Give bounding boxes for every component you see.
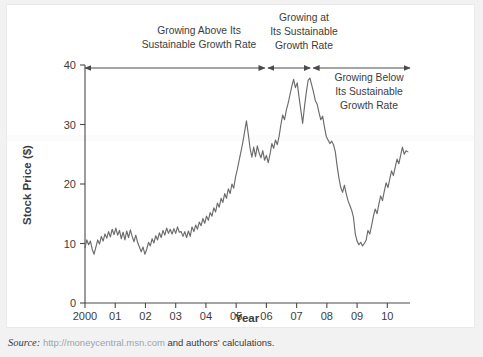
- y-axis-tick-labels: 010203040: [64, 59, 76, 309]
- annotation-growing-at-line-1: Growing at: [279, 12, 329, 23]
- background-band: [7, 135, 474, 141]
- x-tick-label-2000: 2000: [73, 310, 97, 322]
- y-tick-label-20: 20: [64, 178, 76, 190]
- annotation-growing-at-line-2: Its Sustainable: [270, 26, 338, 37]
- y-axis-ticks: [80, 65, 85, 303]
- x-tick-label-03: 03: [170, 310, 182, 322]
- source-label: Source:: [8, 337, 40, 348]
- x-tick-label-08: 08: [321, 310, 333, 322]
- figure-root: 010203040 200001020304050607080910 Growi…: [0, 0, 483, 357]
- x-tick-label-02: 02: [139, 310, 151, 322]
- annotation-growing-below-line-1: Growing Below: [334, 72, 404, 83]
- annotation-growing-above-line-2: Sustainable Growth Rate: [142, 39, 257, 50]
- x-tick-label-10: 10: [381, 310, 393, 322]
- annotation-growing-below: Growing Below Its Sustainable Growth Rat…: [334, 72, 404, 111]
- x-tick-label-07: 07: [291, 310, 303, 322]
- x-tick-label-06: 06: [260, 310, 272, 322]
- annotation-growing-below-line-3: Growth Rate: [340, 100, 398, 111]
- x-axis-tick-labels: 200001020304050607080910: [73, 310, 394, 322]
- source-caption: Source: http://moneycentral.msn.com and …: [8, 336, 478, 349]
- x-tick-label-04: 04: [200, 310, 212, 322]
- figure-panel: 010203040 200001020304050607080910 Growi…: [7, 5, 474, 327]
- x-tick-label-01: 01: [109, 310, 121, 322]
- x-tick-label-09: 09: [351, 310, 363, 322]
- y-axis-title: Stock Price ($): [21, 145, 33, 225]
- annotation-growing-at-line-3: Growth Rate: [275, 40, 333, 51]
- stock-price-chart: 010203040 200001020304050607080910 Growi…: [7, 5, 474, 327]
- annotation-growing-above-line-1: Growing Above Its: [157, 25, 241, 36]
- x-axis-ticks: [85, 303, 387, 308]
- source-url[interactable]: http://moneycentral.msn.com: [43, 337, 165, 348]
- annotation-growing-at: Growing at Its Sustainable Growth Rate: [270, 12, 338, 51]
- y-tick-label-10: 10: [64, 238, 76, 250]
- x-axis-title: Year: [235, 312, 260, 324]
- annotation-growing-above: Growing Above Its Sustainable Growth Rat…: [142, 25, 257, 50]
- y-tick-label-30: 30: [64, 119, 76, 131]
- source-tail: and authors' calculations.: [168, 337, 275, 348]
- y-tick-label-40: 40: [64, 59, 76, 71]
- annotation-growing-below-line-2: Its Sustainable: [335, 86, 403, 97]
- y-tick-label-0: 0: [70, 297, 76, 309]
